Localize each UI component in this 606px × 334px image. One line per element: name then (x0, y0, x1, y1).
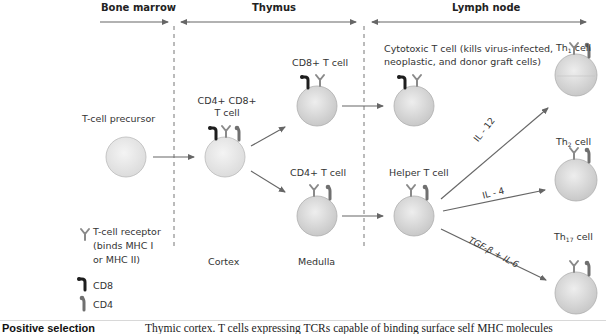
label-helper: Helper T cell (389, 167, 449, 179)
label-cytotoxic-1: Cytotoxic T cell (kills virus-infected, (384, 43, 553, 55)
footer-title: Positive selection (2, 322, 95, 334)
cell-cd4 (297, 185, 337, 236)
cell-th17 (555, 261, 597, 314)
legend-tcr-2: (binds MHC I (93, 240, 153, 252)
label-double-positive-2: T cell (197, 107, 257, 119)
label-cytotoxic-2: neoplastic, and donor graft cells) (384, 56, 541, 68)
cell-cytotoxic (394, 75, 434, 126)
label-th2: Th2 cell (556, 136, 591, 151)
cd4-legend-icon (80, 296, 85, 310)
footer-text: Thymic cortex. T cells expressing TCRs c… (145, 322, 553, 334)
label-cd4-t-cell: CD4+ T cell (290, 167, 346, 179)
label-cortex: Cortex (208, 256, 239, 268)
tcr-legend-icon (81, 229, 89, 240)
region-bone-marrow: Bone marrow (101, 2, 176, 13)
cd8-legend-icon (77, 277, 85, 290)
legend-icons (77, 229, 89, 310)
label-th1: Th1 cell (556, 42, 591, 57)
cell-th2 (555, 148, 597, 201)
legend-cd8: CD8 (93, 280, 113, 292)
label-cd8-t-cell: CD8+ T cell (292, 57, 348, 69)
label-th17: Th17 cell (554, 231, 593, 246)
cell-double-positive (205, 126, 245, 177)
label-precursor: T-cell precursor (82, 113, 155, 125)
region-lymph-node: Lymph node (452, 2, 520, 13)
cell-cd8 (297, 75, 337, 126)
label-medulla: Medulla (298, 256, 335, 268)
region-thymus: Thymus (252, 2, 296, 13)
legend-tcr-3: or MHC II) (93, 254, 140, 266)
legend-tcr-1: T-cell receptor (93, 226, 161, 238)
cell-precursor (106, 137, 146, 177)
cell-helper (394, 185, 434, 236)
footer-divider (0, 320, 606, 321)
label-double-positive-1: CD4+ CD8+ (197, 95, 257, 107)
legend-cd4: CD4 (93, 299, 113, 311)
